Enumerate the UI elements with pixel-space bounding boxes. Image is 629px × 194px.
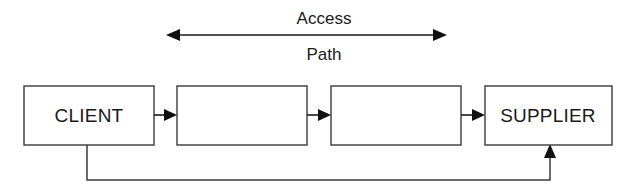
- access-path-span-arrow: [166, 29, 447, 41]
- connector-client-to-stage-1-head: [164, 109, 177, 121]
- connector-stage-2-to-supplier: [461, 109, 485, 121]
- feedback-arrow-head: [544, 144, 556, 158]
- node-stage-1[interactable]: [177, 86, 307, 145]
- node-supplier-label: SUPPLIER: [500, 105, 596, 126]
- span-label-line1: Access: [297, 9, 352, 28]
- connector-stage-1-to-stage-2-head: [318, 109, 331, 121]
- node-stage-1-box[interactable]: [177, 86, 307, 145]
- node-client-label: CLIENT: [55, 105, 124, 126]
- diagram-canvas: Access Path CLIENT SUPPLIER: [0, 0, 629, 194]
- connector-stage-1-to-stage-2: [307, 109, 331, 121]
- span-label-line2: Path: [307, 45, 342, 64]
- span-arrow-head-right: [433, 29, 447, 41]
- span-arrow-head-left: [166, 29, 180, 41]
- node-supplier[interactable]: SUPPLIER: [485, 86, 612, 145]
- access-path-diagram: Access Path CLIENT SUPPLIER: [0, 0, 629, 194]
- connector-stage-2-to-supplier-head: [472, 109, 485, 121]
- node-stage-2[interactable]: [331, 86, 461, 145]
- feedback-path: [87, 145, 550, 180]
- connector-client-to-stage-1: [154, 109, 177, 121]
- supplier-feedback-connector: [87, 144, 556, 180]
- node-stage-2-box[interactable]: [331, 86, 461, 145]
- node-client[interactable]: CLIENT: [24, 86, 154, 145]
